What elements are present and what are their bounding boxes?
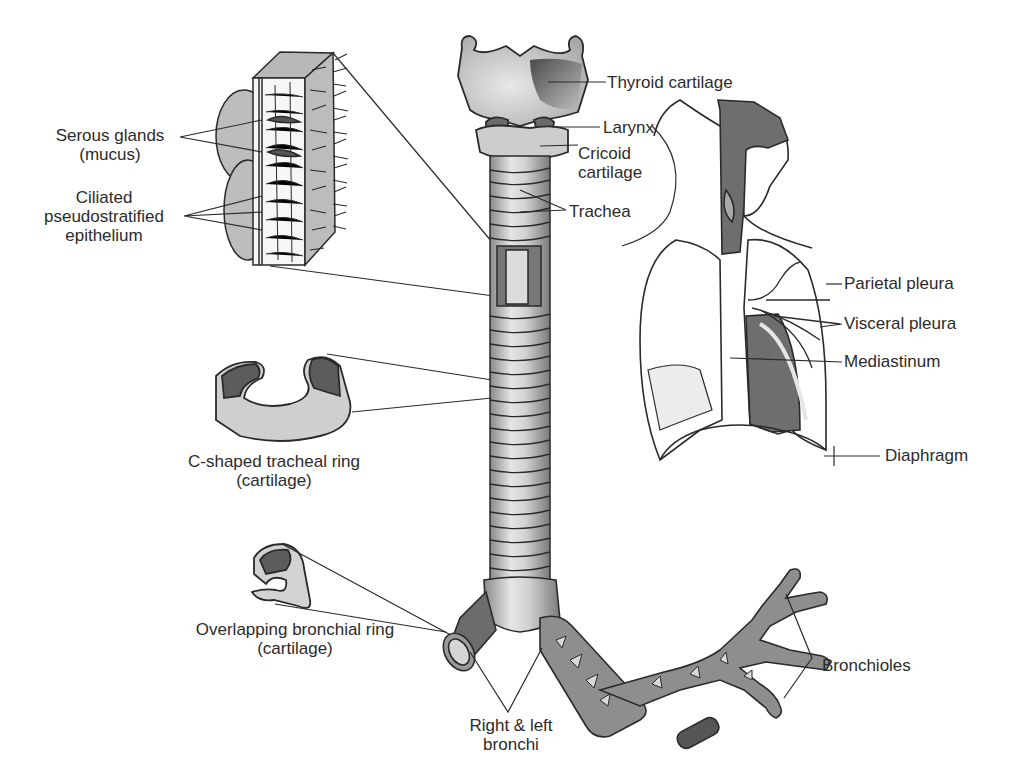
c-shaped-ring <box>216 354 492 441</box>
label-serous-glands: Serous glands (mucus) <box>40 126 180 164</box>
label-serous-glands-line2: (mucus) <box>40 145 180 164</box>
label-c-ring-line2: (cartilage) <box>164 471 384 490</box>
label-serous-glands-line1: Serous glands <box>40 126 180 145</box>
label-bronchial-ring-line2: (cartilage) <box>150 639 440 658</box>
label-larynx: Larynx <box>603 118 654 137</box>
label-bronchial-ring: Overlapping bronchial ring (cartilage) <box>150 620 440 658</box>
cricoid-cartilage <box>476 126 568 159</box>
label-ciliated-line1: Ciliated <box>24 188 184 207</box>
label-bronchi-line1: Right & left <box>456 716 566 735</box>
label-c-ring-line1: C-shaped tracheal ring <box>164 452 384 471</box>
trachea <box>490 156 550 586</box>
label-cricoid-cartilage: Cricoid cartilage <box>578 144 642 182</box>
epithelium-block <box>216 52 494 296</box>
label-cricoid-line1: Cricoid <box>578 144 642 163</box>
label-cricoid-line2: cartilage <box>578 163 642 182</box>
label-trachea: Trachea <box>569 202 631 221</box>
label-ciliated-line2: pseudostratified <box>24 207 184 226</box>
label-parietal-pleura: Parietal pleura <box>844 274 954 293</box>
label-mediastinum: Mediastinum <box>844 352 940 371</box>
label-thyroid-cartilage: Thyroid cartilage <box>607 73 733 92</box>
label-bronchi: Right & left bronchi <box>456 716 566 754</box>
label-visceral-pleura: Visceral pleura <box>844 314 956 333</box>
label-ciliated-epithelium: Ciliated pseudostratified epithelium <box>24 188 184 245</box>
label-diaphragm: Diaphragm <box>885 446 968 465</box>
label-bronchi-line2: bronchi <box>456 735 566 754</box>
label-bronchial-ring-line1: Overlapping bronchial ring <box>150 620 440 639</box>
label-ciliated-line3: epithelium <box>24 226 184 245</box>
larynx <box>458 36 588 158</box>
label-bronchioles: Bronchioles <box>822 656 911 675</box>
label-c-shaped-ring: C-shaped tracheal ring (cartilage) <box>164 452 384 490</box>
thorax-schematic <box>640 100 840 460</box>
